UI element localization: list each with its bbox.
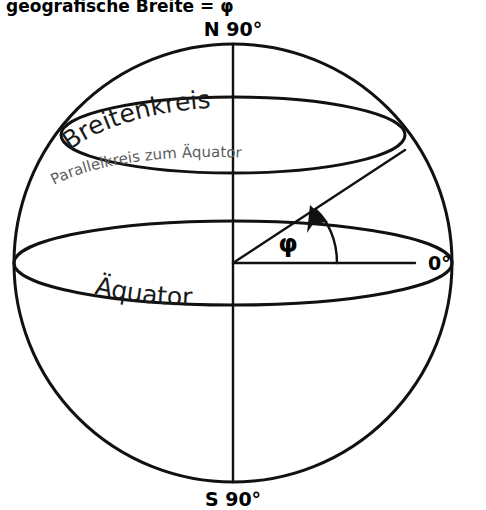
equator-degree-label: 0° <box>428 252 451 274</box>
equator-label-text: Äquator <box>93 271 194 312</box>
north-pole-label: N 90° <box>204 18 262 40</box>
sphere-figure: geografische Breite = φ N 90° S 90° 0° B… <box>0 0 486 510</box>
diagram-title: geografische Breite = φ <box>6 0 233 16</box>
angle-phi-label: φ <box>278 229 298 258</box>
equator-label: Äquator <box>93 271 194 312</box>
latitude-sphere-diagram: geografische Breite = φ N 90° S 90° 0° B… <box>0 0 486 510</box>
south-pole-label: S 90° <box>205 488 261 510</box>
